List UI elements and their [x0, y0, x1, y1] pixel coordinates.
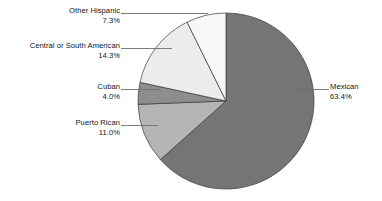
pie-label-mexican-category: Mexican	[330, 82, 382, 92]
pie-label-other-hispanic: Other Hispanic 7.3%	[34, 6, 120, 27]
pie-label-cuban-percent: 4.0%	[38, 92, 120, 102]
pie-label-cuban: Cuban 4.0%	[38, 82, 120, 103]
pie-chart-figure: Other Hispanic 7.3% Central or South Ame…	[0, 0, 382, 201]
pie-label-central-south-percent: 14.3%	[3, 51, 120, 61]
pie-label-puerto-rican-percent: 11.0%	[26, 128, 120, 138]
pie-label-other-hispanic-percent: 7.3%	[34, 16, 120, 26]
pie-label-cuban-category: Cuban	[38, 82, 120, 92]
pie-label-mexican: Mexican 63.4%	[330, 82, 382, 103]
pie-label-puerto-rican: Puerto Rican 11.0%	[26, 118, 120, 139]
pie-label-mexican-percent: 63.4%	[330, 92, 382, 102]
pie-label-central-south: Central or South American 14.3%	[3, 41, 120, 62]
pie-label-puerto-rican-category: Puerto Rican	[26, 118, 120, 128]
pie-slices	[138, 13, 314, 189]
pie-label-central-south-category: Central or South American	[3, 41, 120, 51]
pie-label-other-hispanic-category: Other Hispanic	[34, 6, 120, 16]
